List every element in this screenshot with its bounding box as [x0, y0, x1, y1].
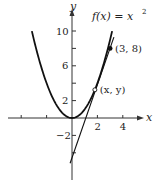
y-tick-label: 10	[56, 26, 69, 37]
function-label-exponent: 2	[142, 8, 146, 16]
open-point	[93, 88, 97, 92]
function-label: f(x) = x	[91, 10, 134, 23]
secant-line	[70, 37, 114, 163]
x-tick-label: 2	[94, 121, 100, 132]
filled-point	[108, 46, 113, 51]
y-tick-label: 6	[62, 60, 68, 71]
y-axis-label: y	[69, 0, 77, 13]
x-tick-label: 4	[120, 121, 126, 132]
y-tick-label: −2	[56, 130, 71, 141]
x-axis-arrow	[137, 116, 144, 121]
y-tick-label: 2	[62, 95, 68, 106]
point-label: (3, 8)	[115, 43, 142, 54]
point-label: (x, y)	[100, 84, 126, 95]
chart: xy241062−2(3, 8)(x, y)f(x) = x2	[0, 0, 157, 183]
x-axis-label: x	[146, 111, 153, 124]
